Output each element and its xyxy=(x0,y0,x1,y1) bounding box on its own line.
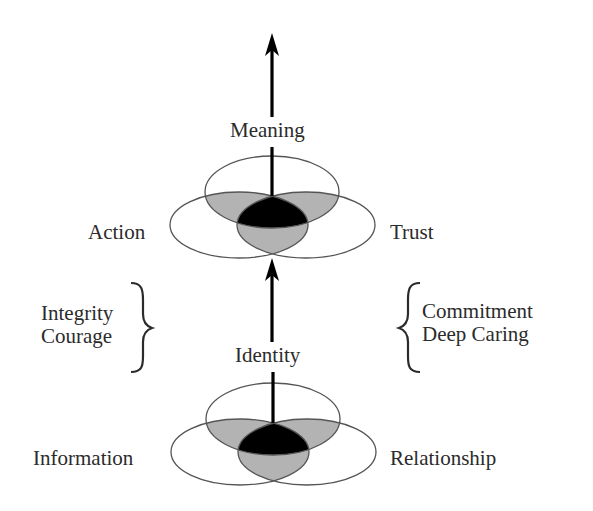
label-action: Action xyxy=(88,222,145,243)
label-trust: Trust xyxy=(390,222,434,243)
label-courage: Courage xyxy=(41,325,113,348)
label-identity: Identity xyxy=(235,345,300,366)
label-meaning: Meaning xyxy=(230,120,305,141)
diagram-graphics xyxy=(0,0,593,511)
right-curly-brace-icon xyxy=(131,283,152,372)
left-curly-brace-icon xyxy=(399,283,420,372)
right-bracket-group: Commitment Deep Caring xyxy=(422,300,533,346)
label-information: Information xyxy=(33,448,133,469)
left-bracket-group: Integrity Courage xyxy=(41,302,113,348)
diagram: Meaning Action Trust Integrity Courage I… xyxy=(0,0,593,511)
label-integrity: Integrity xyxy=(41,302,113,325)
label-deep-caring: Deep Caring xyxy=(422,323,533,346)
label-relationship: Relationship xyxy=(390,448,496,469)
arrow-top xyxy=(265,33,279,117)
label-commitment: Commitment xyxy=(422,300,533,323)
arrow-middle xyxy=(265,258,279,342)
